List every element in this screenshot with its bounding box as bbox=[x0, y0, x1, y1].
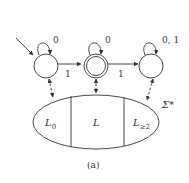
self-loop-label-q1: 0 bbox=[105, 35, 111, 45]
self-loop-label-q2: 0, 1 bbox=[162, 35, 179, 45]
self-loop-label-q0: 0 bbox=[53, 35, 59, 45]
self-loop-q0 bbox=[38, 43, 50, 55]
figure-caption: (a) bbox=[87, 160, 99, 170]
transition-label-q0-q1: 1 bbox=[65, 69, 71, 79]
self-loop-q1 bbox=[89, 43, 101, 55]
initial-arrow bbox=[16, 38, 33, 55]
state-q2: 0, 1 bbox=[139, 35, 179, 78]
partition-label-L0: L0 bbox=[44, 117, 56, 131]
self-loop-q2 bbox=[144, 43, 156, 55]
state-q0: 0 bbox=[34, 35, 59, 78]
mapping-arrow-q0-L0 bbox=[49, 79, 53, 97]
mapping-arrow-q2-Lge2 bbox=[147, 79, 153, 100]
automaton-diagram: 0 1 0 1 0, 1 Σ* L0 L L≥2 (a) bbox=[0, 0, 189, 183]
partition-label-L: L bbox=[92, 117, 100, 128]
state-q1-accepting: 0 bbox=[84, 35, 111, 78]
transition-label-q1-q2: 1 bbox=[118, 69, 124, 79]
partition-label-Lge2: L≥2 bbox=[132, 117, 150, 131]
universe-label: Σ* bbox=[161, 99, 174, 110]
